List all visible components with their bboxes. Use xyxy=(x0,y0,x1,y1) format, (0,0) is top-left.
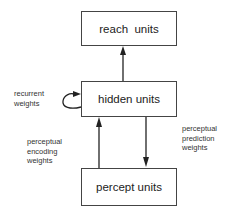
recurrent-loop-arrow xyxy=(63,91,81,108)
percept-units-node: percept units xyxy=(81,168,177,206)
reach-units-node: reach units xyxy=(81,11,177,46)
percept-units-label: percept units xyxy=(96,181,162,193)
arrow-hidden-to-percept xyxy=(143,116,149,167)
perceptual-encoding-weights-label: perceptual encoding weights xyxy=(27,137,62,166)
perceptual-prediction-weights-label: perceptual prediction weights xyxy=(182,124,217,153)
recurrent-weights-label: recurrent weights xyxy=(14,89,44,108)
reach-units-label: reach units xyxy=(99,23,158,35)
hidden-units-label: hidden units xyxy=(98,93,160,105)
arrow-percept-to-hidden xyxy=(96,117,102,168)
arrow-hidden-to-reach xyxy=(120,46,126,81)
hidden-units-node: hidden units xyxy=(81,81,177,117)
